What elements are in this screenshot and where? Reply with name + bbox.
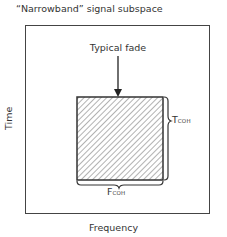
coherence-time-label: TCOH <box>172 114 191 125</box>
right-brace-icon <box>164 97 171 180</box>
diagram-graphics <box>0 0 227 237</box>
tcoh-subscript: COH <box>178 118 191 124</box>
typical-fade-region <box>77 97 163 180</box>
fcoh-subscript: COH <box>112 190 125 196</box>
coherence-bandwidth-label: FCOH <box>107 186 125 197</box>
down-arrow-icon <box>114 56 122 97</box>
